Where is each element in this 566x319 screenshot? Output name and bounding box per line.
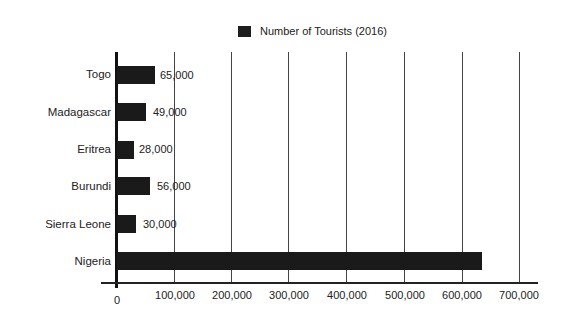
category-label: Nigeria bbox=[75, 255, 111, 267]
x-tick-label: 300,000 bbox=[269, 289, 309, 301]
x-tick-label: 700,000 bbox=[499, 289, 539, 301]
bar-eritrea bbox=[117, 141, 134, 159]
plot-area: 65,000 49,000 28,000 56,000 30,000 bbox=[115, 52, 538, 282]
x-tick-label: 200,000 bbox=[212, 289, 252, 301]
bar-nigeria bbox=[117, 252, 482, 270]
value-label-togo: 65,000 bbox=[160, 69, 194, 81]
bar-togo bbox=[117, 66, 155, 84]
x-tick-label: 100,000 bbox=[155, 289, 195, 301]
gridline bbox=[174, 52, 175, 282]
legend-swatch bbox=[238, 26, 251, 37]
gridline bbox=[346, 52, 347, 282]
legend-label: Number of Tourists (2016) bbox=[260, 25, 387, 37]
value-label-sierra-leone: 30,000 bbox=[143, 218, 177, 230]
x-tick-label: 400,000 bbox=[327, 289, 367, 301]
legend: Number of Tourists (2016) bbox=[238, 25, 387, 37]
bar-burundi bbox=[117, 177, 150, 195]
value-label-burundi: 56,000 bbox=[157, 180, 191, 192]
value-label-eritrea: 28,000 bbox=[139, 143, 173, 155]
gridline bbox=[462, 52, 463, 282]
x-tick-label: 500,000 bbox=[385, 289, 425, 301]
gridline bbox=[231, 52, 232, 282]
x-tick-label: 0 bbox=[114, 294, 120, 306]
bar-madagascar bbox=[117, 103, 146, 121]
x-axis bbox=[101, 282, 538, 284]
category-label: Togo bbox=[86, 68, 111, 80]
gridline bbox=[288, 52, 289, 282]
gridline bbox=[519, 52, 520, 282]
gridline bbox=[404, 52, 405, 282]
category-label: Eritrea bbox=[77, 143, 111, 155]
bar-sierra-leone bbox=[117, 215, 136, 233]
x-tick-label: 600,000 bbox=[442, 289, 482, 301]
value-label-madagascar: 49,000 bbox=[153, 106, 187, 118]
category-label: Sierra Leone bbox=[45, 218, 111, 230]
category-label: Madagascar bbox=[48, 106, 111, 118]
category-label: Burundi bbox=[71, 180, 111, 192]
